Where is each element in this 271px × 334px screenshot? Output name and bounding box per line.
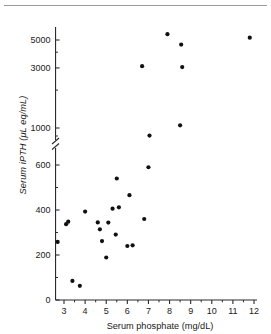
y-tick-label-400: 400 [36,205,51,215]
x-tick-label-10: 10 [207,306,217,316]
data-point [179,42,183,46]
data-point [110,207,114,211]
y-axis-title-text: Serum iPTH (μL eq/mL) [18,96,28,195]
data-point [78,284,82,288]
scatter-figure: 34567891011120200400600100030005000Serum… [0,0,271,334]
data-point [83,209,87,213]
data-point [178,123,182,127]
data-point [248,36,252,40]
data-point [70,279,74,283]
data-point [127,193,131,197]
x-tick-label-11: 11 [228,306,237,316]
y-tick-label-0: 0 [46,295,51,305]
data-point [117,205,121,209]
y-tick-label-1000: 1000 [31,123,51,133]
data-point [140,64,144,68]
y-tick-label-3000: 3000 [31,63,51,73]
data-point [66,220,70,224]
data-point [115,176,119,180]
x-axis-title: Serum phosphate (mg/dL) [107,321,214,331]
x-tick-label-6: 6 [125,306,130,316]
y-tick-label-600: 600 [36,160,51,170]
data-point [147,134,151,138]
data-point [104,255,108,259]
y-tick-label-5000: 5000 [31,35,51,45]
x-tick-label-9: 9 [188,306,193,316]
data-point [142,217,146,221]
x-tick-label-12: 12 [249,306,259,316]
y-tick-label-200: 200 [36,250,51,260]
data-point [146,165,150,169]
x-tick-label-7: 7 [146,306,151,316]
data-point [125,244,129,248]
scatter-plot-canvas: 34567891011120200400600100030005000Serum… [0,0,271,334]
data-point [165,32,169,36]
x-tick-label-8: 8 [167,306,172,316]
data-point [114,232,118,236]
data-point [96,220,100,224]
x-tick-label-5: 5 [104,306,109,316]
y-axis-title: Serum iPTH (μL eq/mL) [18,30,28,260]
x-tick-label-3: 3 [61,306,66,316]
data-point [106,221,110,225]
x-tick-label-4: 4 [83,306,88,316]
data-point [131,243,135,247]
data-point [98,227,102,231]
data-point [100,239,104,243]
data-point [56,240,60,244]
data-point [180,65,184,69]
